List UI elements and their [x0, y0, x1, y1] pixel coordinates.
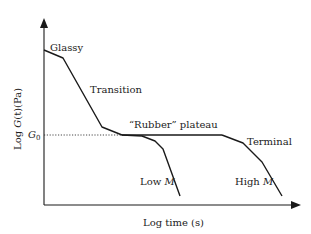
label-low-m-prefix: Low: [140, 176, 164, 187]
y-axis-label-arg: (t): [12, 108, 23, 120]
label-terminal: Terminal: [247, 136, 292, 147]
label-g0-symbol: G: [28, 129, 36, 140]
x-axis-arrow-icon: [291, 201, 301, 209]
label-low-m-symbol: M: [163, 176, 175, 187]
y-axis-label: Log G(t)(Pa): [12, 88, 23, 150]
label-high-m-prefix: High: [235, 176, 263, 187]
label-rubber-plateau: “Rubber” plateau: [129, 119, 218, 130]
x-axis-label: Log time (s): [143, 217, 204, 228]
y-axis-label-symbol: G: [12, 120, 23, 128]
label-transition: Transition: [90, 84, 142, 95]
relaxation-modulus-diagram: Glassy Transition “Rubber” plateau Termi…: [0, 0, 311, 234]
label-high-m-symbol: M: [262, 176, 274, 187]
y-axis-label-unit: (Pa): [12, 88, 23, 108]
label-low-m: Low M: [140, 176, 175, 187]
label-high-m: High M: [235, 176, 274, 187]
label-g0: G0: [28, 129, 40, 142]
y-axis-label-prefix: Log: [12, 128, 23, 150]
label-g0-subscript: 0: [36, 134, 40, 142]
label-glassy: Glassy: [50, 42, 83, 53]
y-axis-arrow-icon: [40, 18, 48, 28]
